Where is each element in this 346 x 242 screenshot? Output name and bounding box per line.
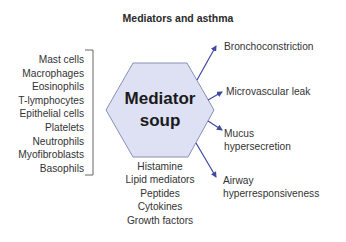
effect-airway-hyperresponsiveness: Airway hyperresponsiveness bbox=[223, 174, 319, 200]
effect-bronchoconstriction: Bronchoconstriction bbox=[224, 40, 313, 53]
effect-label: Microvascular leak bbox=[226, 85, 310, 98]
effect-label: hyperresponsiveness bbox=[223, 187, 319, 200]
effect-microvascular-leak: Microvascular leak bbox=[226, 85, 310, 98]
effect-mucus-hypersecretion: Mucus hypersecretion bbox=[224, 127, 291, 153]
effect-label: Airway bbox=[223, 174, 319, 187]
effect-label: hypersecretion bbox=[224, 140, 291, 153]
cell-source-item: Mast cells bbox=[18, 53, 84, 67]
mediator-type-item: Growth factors bbox=[100, 214, 220, 227]
mediator-type-item: Histamine bbox=[100, 160, 220, 173]
cell-sources-bracket bbox=[85, 50, 93, 175]
effect-label: Bronchoconstriction bbox=[224, 40, 313, 53]
effect-label: Mucus bbox=[224, 127, 291, 140]
cell-source-item: Macrophages bbox=[18, 67, 84, 81]
cell-source-item: T-lymphocytes bbox=[18, 94, 84, 108]
mediator-type-item: Cytokines bbox=[100, 200, 220, 213]
mediator-type-item: Lipid mediators bbox=[100, 173, 220, 186]
cell-source-item: Epithelial cells bbox=[18, 107, 84, 121]
mediator-soup-label: Mediator soup bbox=[106, 88, 214, 132]
cell-source-item: Eosinophils bbox=[18, 80, 84, 94]
cell-source-item: Basophils bbox=[18, 162, 84, 176]
arrow-bronchoconstriction bbox=[197, 46, 216, 80]
cell-source-item: Neutrophils bbox=[18, 135, 84, 149]
center-label-line1: Mediator bbox=[106, 88, 214, 110]
cell-source-item: Myofibroblasts bbox=[18, 148, 84, 162]
center-label-line2: soup bbox=[106, 110, 214, 132]
cell-source-item: Platelets bbox=[18, 121, 84, 135]
mediator-types-list: Histamine Lipid mediators Peptides Cytok… bbox=[100, 160, 220, 227]
mediator-type-item: Peptides bbox=[100, 187, 220, 200]
cell-sources-list: Mast cells Macrophages Eosinophils T-lym… bbox=[18, 53, 84, 175]
